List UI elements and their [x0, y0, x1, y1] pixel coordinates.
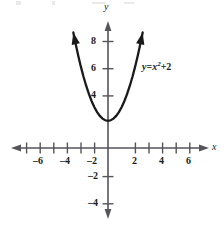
scan-artifact-strip [0, 0, 224, 7]
equation-constant: 2 [166, 61, 171, 72]
y-tick-label--4: –4 [88, 197, 98, 208]
equation-label: y=x2+2 [142, 61, 171, 72]
x-tick-label--2: –2 [87, 155, 97, 166]
x-tick-label--4: –4 [60, 155, 70, 166]
y-axis-label: y [104, 1, 108, 12]
x-axis-label: x [212, 141, 216, 152]
x-tick-label-4: 4 [159, 155, 164, 166]
coordinate-plane-graph [0, 0, 224, 240]
y-tick-label--2: –2 [88, 170, 98, 181]
x-tick-label-6: 6 [186, 155, 191, 166]
y-tick-label-4: 4 [91, 89, 96, 100]
y-tick-label-6: 6 [91, 62, 96, 73]
x-tick-label-2: 2 [132, 155, 137, 166]
x-tick-label--6: –6 [33, 155, 43, 166]
y-tick-label-8: 8 [91, 35, 96, 46]
